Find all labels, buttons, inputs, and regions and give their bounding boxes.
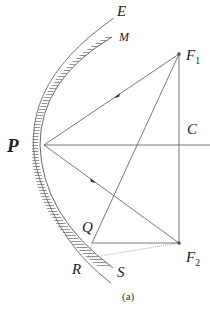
label-S: S <box>117 265 125 280</box>
label-F1: F1 <box>186 48 200 66</box>
diagram-lines <box>0 0 210 309</box>
mirror-hatching <box>32 37 113 268</box>
mirror-surface <box>40 37 113 268</box>
label-F2: F2 <box>186 250 200 268</box>
label-Q: Q <box>82 220 93 235</box>
ray-F1-Q <box>92 54 179 243</box>
arrow-F1-P <box>114 93 120 98</box>
label-R: R <box>72 262 81 277</box>
label-F2-sub: 2 <box>195 257 200 268</box>
label-F1-sub: 1 <box>195 55 200 66</box>
label-P: P <box>7 136 19 155</box>
label-M: M <box>119 31 129 43</box>
label-F2-text: F <box>186 249 195 265</box>
label-F1-text: F <box>186 47 195 63</box>
figure-caption: (a) <box>122 290 134 302</box>
point-F2 <box>177 241 181 245</box>
label-E: E <box>117 4 126 19</box>
point-F1 <box>177 52 181 56</box>
label-C: C <box>187 122 197 137</box>
mirror-diagram: E M F1 P C Q R S F2 (a) <box>0 0 210 309</box>
dotted-to-F2 <box>88 243 179 258</box>
ray-F1-P <box>44 54 179 145</box>
